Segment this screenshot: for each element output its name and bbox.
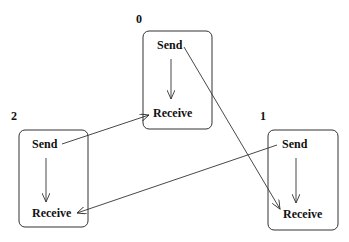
process-1-label: 1 [260,109,266,123]
process-2-send: Send [32,137,58,151]
process-1-send: Send [282,137,308,151]
process-0: 0 Send Receive [136,12,212,129]
message-diagram: 0 Send Receive 2 Send Receive 1 Send Rec… [0,0,349,242]
process-0-send: Send [157,38,183,52]
process-0-receive: Receive [153,106,193,120]
message-0-to-1-arrow [184,47,280,209]
process-0-label: 0 [136,12,142,26]
process-2-label: 2 [11,109,17,123]
process-1-receive: Receive [283,207,323,221]
message-1-to-2-arrow [77,145,277,213]
process-2-receive: Receive [32,206,72,220]
process-1: 1 Send Receive [260,109,338,230]
process-2: 2 Send Receive [11,109,88,227]
